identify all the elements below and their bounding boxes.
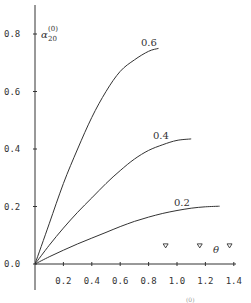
triangle-marker-icon bbox=[227, 244, 232, 248]
y-tick-label: 0.0 bbox=[4, 259, 20, 269]
y-axis-title-main: α bbox=[41, 29, 48, 40]
y-axis-title-sup: (0) bbox=[48, 25, 58, 33]
triangle-markers bbox=[163, 244, 232, 248]
x-tick-labels: 0.2 0.4 0.6 0.8 1.0 1.2 1.4 bbox=[55, 276, 242, 286]
x-tick-label: 1.0 bbox=[169, 276, 185, 286]
x-tick-label: 0.2 bbox=[55, 276, 71, 286]
curve-label-0.4: 0.4 bbox=[153, 130, 169, 141]
curve-0.2 bbox=[35, 206, 220, 264]
caption-fragment: (0) bbox=[186, 296, 195, 303]
curve-label-0.6: 0.6 bbox=[141, 37, 157, 48]
x-tick-label: 0.6 bbox=[112, 276, 128, 286]
curve-0.6 bbox=[35, 48, 159, 264]
triangle-marker-icon bbox=[163, 244, 168, 248]
y-axis-title: α 20 (0) bbox=[41, 25, 58, 43]
y-tick-label: 0.2 bbox=[4, 202, 20, 212]
x-tick-label: 1.4 bbox=[226, 276, 242, 286]
curves bbox=[35, 48, 220, 264]
x-tick-label: 0.8 bbox=[140, 276, 156, 286]
x-tick-label: 1.2 bbox=[197, 276, 213, 286]
x-axis-title: θ bbox=[213, 244, 219, 255]
triangle-marker-icon bbox=[197, 244, 202, 248]
y-tick-label: 0.4 bbox=[4, 144, 20, 154]
y-tick-labels: 0.0 0.2 0.4 0.6 0.8 bbox=[4, 29, 20, 269]
y-tick-label: 0.8 bbox=[4, 29, 20, 39]
x-tick-label: 0.4 bbox=[84, 276, 100, 286]
y-axis-title-sub: 20 bbox=[48, 35, 57, 43]
y-tick-label: 0.6 bbox=[4, 87, 20, 97]
curve-label-0.2: 0.2 bbox=[174, 197, 190, 208]
chart-canvas: 0.0 0.2 0.4 0.6 0.8 0.2 0.4 0.6 0.8 1.0 … bbox=[0, 0, 251, 303]
